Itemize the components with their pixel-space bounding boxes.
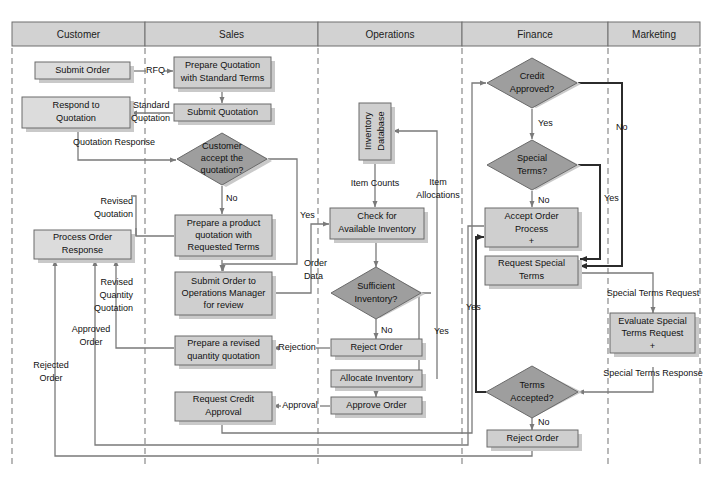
- node-inventory-database-line1: Inventory: [363, 112, 373, 150]
- lane-label-sales: Sales: [219, 29, 244, 40]
- node-terms-accepted-line2: Accepted?: [510, 393, 553, 403]
- edge-label-yes-sufficient: Yes: [434, 326, 449, 336]
- node-respond-to-quotation[interactable]: Respond to Quotation: [22, 97, 134, 132]
- node-reject-order-finance[interactable]: Reject Order: [487, 430, 582, 451]
- node-evaluate-special-line3: +: [650, 341, 655, 351]
- edge-label-order-data-1: Order: [304, 258, 327, 268]
- node-customer-accept-decision[interactable]: Customer accept the quotation?: [177, 133, 272, 187]
- node-submit-order-operations-line2: Operations Manager: [182, 288, 266, 298]
- node-submit-order[interactable]: Submit Order: [35, 62, 134, 83]
- node-respond-to-quotation-line2: Quotation: [56, 113, 96, 123]
- node-special-terms-decision[interactable]: Special Terms?: [487, 140, 581, 190]
- node-prepare-quotation-line1: Prepare Quotation: [185, 60, 260, 70]
- node-prepare-quotation-line2: with Standard Terms: [180, 73, 265, 83]
- node-accept-order-process[interactable]: Accept Order Process +: [485, 208, 582, 251]
- node-evaluate-special-line1: Evaluate Special: [618, 316, 686, 326]
- node-request-credit-line2: Approval: [205, 407, 241, 417]
- node-inventory-database-line2: Database: [376, 111, 386, 150]
- node-evaluate-special-line2: Terms Request: [622, 328, 684, 338]
- node-request-special-terms-line2: Terms: [519, 271, 544, 281]
- node-prepare-product-quotation-line3: Requested Terms: [188, 242, 260, 252]
- node-customer-accept-line3: quotation?: [201, 165, 244, 175]
- node-sufficient-inventory-line1: Sufficient: [357, 281, 395, 291]
- node-credit-approved-line2: Approved?: [510, 84, 554, 94]
- node-accept-order-process-line2: Process: [515, 224, 549, 234]
- edge-label-standard-quotation-1: Standard: [133, 100, 170, 110]
- node-customer-accept-line2: accept the: [201, 153, 243, 163]
- edge-label-revised-quantity-1: Revised: [100, 277, 133, 287]
- node-reject-order-ops-label: Reject Order: [350, 342, 402, 352]
- node-approve-order[interactable]: Approve Order: [331, 397, 426, 418]
- node-prepare-revised-line2: quantity quotation: [187, 351, 260, 361]
- edge-label-order-data-2: Data: [304, 271, 323, 281]
- edge-label-yes-credit: Yes: [538, 118, 553, 128]
- node-credit-approved-decision[interactable]: Credit Approved?: [487, 58, 581, 108]
- node-accept-order-process-line3: +: [529, 236, 534, 246]
- node-check-available-inventory[interactable]: Check for Available Inventory: [330, 208, 428, 243]
- node-process-order-response-line1: Process Order: [53, 232, 112, 242]
- edge-revised-quotation-to-process-order: [131, 196, 174, 236]
- node-evaluate-special-terms-request[interactable]: Evaluate Special Terms Request +: [610, 313, 699, 357]
- edge-label-standard-quotation-2: Quotation: [131, 113, 170, 123]
- node-submit-order-label: Submit Order: [55, 65, 110, 75]
- edge-label-yes-special: Yes: [604, 193, 619, 203]
- node-submit-order-operations-line3: for review: [204, 300, 244, 310]
- edge-label-yes-terms: Yes: [466, 302, 481, 312]
- node-reject-order-operations[interactable]: Reject Order: [331, 339, 426, 360]
- node-accept-order-process-line1: Accept Order: [504, 211, 558, 221]
- node-process-order-response-line2: Response: [62, 245, 103, 255]
- edge-label-no-customer-accept: No: [226, 193, 238, 203]
- edge-label-rejected-order-1: Rejected: [33, 360, 69, 370]
- node-submit-order-operations[interactable]: Submit Order to Operations Manager for r…: [175, 272, 276, 319]
- node-request-credit-line1: Request Credit: [193, 394, 255, 404]
- edge-label-item-allocations-2: Allocations: [416, 190, 460, 200]
- lane-label-operations: Operations: [366, 29, 415, 40]
- edge-label-revised-quantity-2: Quantity: [99, 290, 133, 300]
- edge-label-item-allocations-1: Item: [429, 177, 447, 187]
- node-prepare-quotation[interactable]: Prepare Quotation with Standard Terms: [174, 57, 275, 92]
- edge-label-approval: Approval: [282, 400, 318, 410]
- lane-label-finance: Finance: [517, 29, 553, 40]
- node-prepare-revised-line1: Prepare a revised: [187, 338, 260, 348]
- edge-label-item-counts: Item Counts: [351, 178, 400, 188]
- node-request-special-terms[interactable]: Request Special Terms: [485, 256, 582, 289]
- node-allocate-inventory[interactable]: Allocate Inventory: [331, 370, 426, 391]
- node-prepare-product-quotation[interactable]: Prepare a product quotation with Request…: [175, 215, 276, 260]
- edge-label-revised-quantity-3: Quotation: [94, 303, 133, 313]
- node-customer-accept-line1: Customer: [202, 141, 242, 151]
- node-process-order-response[interactable]: Process Order Response: [34, 230, 135, 263]
- edge-label-rejection: Rejection: [278, 342, 316, 352]
- lane-label-customer: Customer: [57, 29, 101, 40]
- edge-label-revised-quotation-2: Quotation: [94, 209, 133, 219]
- node-prepare-revised-quantity-quotation[interactable]: Prepare a revised quantity quotation: [175, 336, 276, 369]
- node-request-credit-approval[interactable]: Request Credit Approval: [175, 392, 276, 425]
- flowchart-canvas: Customer Sales Operations Finance Market…: [0, 0, 708, 486]
- edge-label-approved-order-1: Approved: [72, 324, 111, 334]
- node-prepare-product-quotation-line2: quotation with: [195, 230, 252, 240]
- edge-sufficient-yes: [419, 293, 431, 378]
- node-respond-to-quotation-line1: Respond to: [53, 100, 100, 110]
- node-submit-order-operations-line1: Submit Order to: [191, 276, 256, 286]
- node-inventory-database[interactable]: Inventory Database: [359, 103, 395, 164]
- lane-label-marketing: Marketing: [632, 29, 676, 40]
- node-sufficient-inventory-decision[interactable]: Sufficient Inventory?: [331, 267, 425, 319]
- node-special-terms-line1: Special: [517, 153, 547, 163]
- node-allocate-inventory-label: Allocate Inventory: [340, 373, 413, 383]
- node-terms-accepted-decision[interactable]: Terms Accepted?: [486, 366, 582, 418]
- edge-label-revised-quotation-1: Revised: [100, 196, 133, 206]
- node-special-terms-line2: Terms?: [517, 166, 547, 176]
- node-request-special-terms-line1: Request Special: [498, 258, 565, 268]
- edge-label-no-credit: No: [616, 122, 628, 132]
- node-submit-quotation-label: Submit Quotation: [187, 107, 258, 117]
- edge-label-yes-customer-accept: Yes: [300, 210, 315, 220]
- node-approve-order-label: Approve Order: [346, 400, 406, 410]
- node-submit-quotation[interactable]: Submit Quotation: [174, 104, 275, 125]
- edge-label-approved-order-2: Order: [79, 337, 102, 347]
- edge-label-special-terms-request: Special Terms Request: [607, 288, 700, 298]
- node-reject-order-finance-label: Reject Order: [506, 433, 558, 443]
- edge-label-no-terms: No: [538, 417, 550, 427]
- edge-label-rejected-order-2: Order: [39, 373, 62, 383]
- node-credit-approved-line1: Credit: [520, 71, 545, 81]
- edge-label-quotation-response: Quotation Response: [73, 137, 155, 147]
- swimlane-flowchart: Customer Sales Operations Finance Market…: [0, 0, 708, 486]
